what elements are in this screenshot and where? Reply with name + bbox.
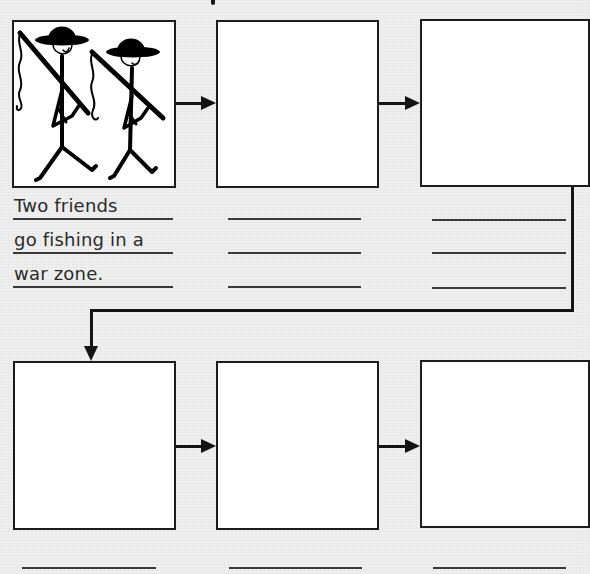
connector-5-6: [379, 445, 406, 448]
panel-6-writing-line-1[interactable]: [433, 567, 566, 569]
panel-1-caption-line-2: go fishing in a: [14, 230, 144, 250]
panel-5-writing-line-1[interactable]: [229, 567, 362, 569]
connector-3-4-vertical: [571, 187, 574, 312]
panel-1-writing-line-2: [13, 252, 173, 254]
panel-3-writing-line-2[interactable]: [432, 252, 566, 254]
arrow-right-icon: [201, 439, 216, 453]
connector-3-4-drop: [90, 309, 93, 347]
panel-3-writing-line-1[interactable]: [432, 219, 566, 221]
panel-3-writing-line-3[interactable]: [432, 287, 566, 289]
stick-figure-2-icon: [91, 52, 163, 178]
panel-2-writing-line-2[interactable]: [228, 252, 361, 254]
elbow-arrow-down-icon: [84, 346, 98, 361]
arrow-right-icon: [405, 96, 420, 110]
helmet-1-icon: [35, 27, 89, 46]
panel-1-writing-line-3: [13, 286, 173, 288]
helmet-2-icon: [106, 39, 160, 58]
panel-1-writing-line-1: [13, 218, 173, 220]
panel-4-writing-line-1[interactable]: [22, 567, 156, 569]
panel-1-caption-line-1: Two friends: [14, 196, 118, 216]
arrow-right-icon: [405, 439, 420, 453]
panel-2-writing-line-1[interactable]: [228, 218, 361, 220]
connector-3-4-horizontal: [90, 309, 574, 312]
panel-1-caption-line-3: war zone.: [14, 264, 103, 284]
stick-figure-1-icon: [17, 33, 96, 180]
connector-1-2: [176, 102, 202, 105]
arrow-right-icon: [201, 96, 216, 110]
panel-2-writing-line-3[interactable]: [228, 286, 361, 288]
connector-4-5: [176, 445, 202, 448]
connector-2-3: [379, 102, 406, 105]
